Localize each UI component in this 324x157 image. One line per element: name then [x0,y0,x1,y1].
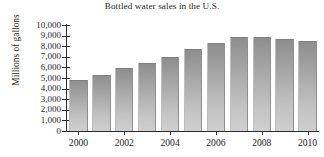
x-tick-mark [308,131,309,135]
y-tick-mark [62,67,70,68]
bar-2003 [138,63,156,131]
y-tick-mark [62,46,70,47]
plot-area: 10,0009,0008,0007,0006,0005,0004,0003,00… [66,25,318,131]
x-tick-mark [124,131,125,135]
x-tick-mark [216,131,217,135]
y-tick-label: 2,000 [41,104,61,114]
bar-2009 [275,39,293,131]
bar-2007 [230,37,248,131]
y-tick-label: 7,000 [41,51,61,61]
bar-2006 [207,43,225,132]
bar-2004 [161,57,179,131]
x-tick-label: 2008 [252,137,271,148]
x-tick-label: 2006 [206,137,225,148]
chart-title: Bottled water sales in the U.S. [0,1,324,11]
y-tick-mark [62,78,70,79]
y-tick-mark [62,36,70,37]
bar-2008 [253,37,271,131]
x-tick-label: 2010 [298,137,317,148]
y-tick-label: 4,000 [41,83,61,93]
x-tick-mark [262,131,263,135]
y-tick-label: 5,000 [41,73,61,83]
x-tick-mark [78,131,79,135]
y-axis-title: Millions of gallons [11,5,21,95]
y-tick-label: 0 [57,126,62,136]
bar-chart-figure: Bottled water sales in the U.S. Millions… [0,0,324,157]
bar-2010 [298,41,316,131]
bar-2001 [92,75,110,131]
y-tick-label: 3,000 [41,94,61,104]
y-tick-label: 1,000 [41,115,61,125]
bar-2000 [69,80,87,131]
x-tick-label: 2000 [69,137,88,148]
bar-2005 [184,49,202,131]
bar-2002 [115,68,133,131]
x-tick-label: 2004 [160,137,179,148]
y-tick-label: 8,000 [41,41,61,51]
y-tick-mark [62,131,70,132]
x-axis-line [66,131,319,132]
y-tick-mark [62,25,70,26]
y-tick-label: 9,000 [41,30,61,40]
x-tick-mark [170,131,171,135]
y-tick-mark [62,57,70,58]
y-tick-label: 6,000 [41,62,61,72]
y-tick-label: 10,000 [36,20,61,30]
x-tick-label: 2002 [115,137,134,148]
